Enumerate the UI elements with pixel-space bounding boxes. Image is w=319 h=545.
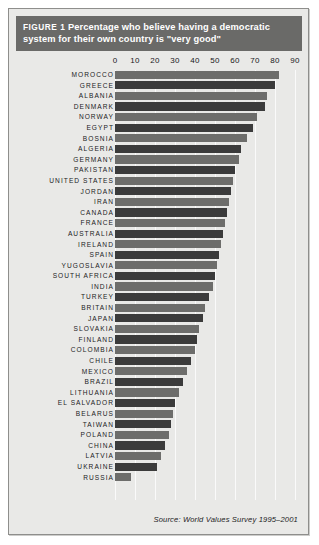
bar-colombia [115, 346, 195, 354]
bar-row: TAIWAN [16, 420, 302, 431]
bar-row: UKRAINE [16, 462, 302, 473]
bar-category-label: TURKEY [81, 292, 114, 301]
bar-row: NORWAY [16, 112, 302, 123]
bar-category-label: AUSTRALIA [68, 229, 114, 238]
bar-brazil [115, 378, 183, 386]
bar-category-label: CHILE [89, 356, 114, 365]
bar-category-label: GREECE [80, 81, 114, 90]
bar-category-label: TAIWAN [83, 420, 114, 429]
bar-category-label: UNITED STATES [49, 176, 114, 185]
bar-category-label: JORDAN [81, 187, 114, 196]
bar-row: FRANCE [16, 218, 302, 229]
bar-turkey [115, 293, 209, 301]
bar-category-label: PAKISTAN [74, 165, 114, 174]
bar-germany [115, 155, 239, 163]
bar-denmark [115, 102, 265, 110]
x-tick-70: 70 [250, 56, 259, 65]
bar-chile [115, 357, 191, 365]
bar-row: INDIA [16, 282, 302, 293]
bar-category-label: MOROCCO [71, 70, 114, 79]
bar-taiwan [115, 420, 171, 428]
bar-australia [115, 230, 223, 238]
bar-row: PAKISTAN [16, 165, 302, 176]
bar-category-label: DENMARK [74, 102, 114, 111]
bar-row: IRAN [16, 197, 302, 208]
bar-category-label: IRELAND [78, 240, 114, 249]
x-tick-0: 0 [113, 56, 118, 65]
bar-slovakia [115, 325, 199, 333]
bar-britain [115, 304, 205, 312]
bar-category-label: NORWAY [79, 112, 114, 121]
x-tick-80: 80 [270, 56, 279, 65]
bar-row: SPAIN [16, 250, 302, 261]
x-axis-tick-labels: 0102030405060708090 [16, 54, 302, 70]
bar-category-label: SOUTH AFRICA [53, 271, 114, 280]
bar-category-label: GERMANY [73, 155, 114, 164]
bar-row: AUSTRALIA [16, 229, 302, 240]
x-tick-40: 40 [190, 56, 199, 65]
x-tick-50: 50 [210, 56, 219, 65]
bar-spain [115, 251, 219, 259]
bar-japan [115, 314, 203, 322]
bar-belarus [115, 410, 173, 418]
bar-south-africa [115, 272, 215, 280]
figure-card: FIGURE 1 Percentage who believe having a… [8, 8, 309, 535]
bar-row: YUGOSLAVIA [16, 261, 302, 272]
bar-canada [115, 208, 227, 216]
bar-row: SOUTH AFRICA [16, 271, 302, 282]
bar-row: JAPAN [16, 314, 302, 325]
bar-category-label: SPAIN [89, 250, 114, 259]
bar-row: COLOMBIA [16, 345, 302, 356]
x-tick-10: 10 [130, 56, 139, 65]
bar-category-label: BRAZIL [85, 377, 114, 386]
bar-poland [115, 431, 169, 439]
figure-number-label: FIGURE 1 [23, 22, 65, 32]
bar-el-salvador [115, 399, 175, 407]
bar-lithuania [115, 388, 179, 396]
bar-row: CANADA [16, 208, 302, 219]
bar-row: RUSSIA [16, 473, 302, 484]
bar-row: SLOVAKIA [16, 324, 302, 335]
bar-row: EGYPT [16, 123, 302, 134]
bar-jordan [115, 187, 231, 195]
bar-category-label: ALGERIA [78, 144, 114, 153]
bar-united-states [115, 177, 233, 185]
bar-category-label: EGYPT [86, 123, 114, 132]
bar-row: LATVIA [16, 451, 302, 462]
bar-row: BRAZIL [16, 377, 302, 388]
bar-category-label: BRITAIN [81, 303, 114, 312]
bar-category-label: IRAN [94, 197, 114, 206]
bar-row: JORDAN [16, 187, 302, 198]
bar-list: MOROCCOGREECEALBANIADENMARKNORWAYEGYPTBO… [16, 70, 302, 500]
bar-row: FINLAND [16, 335, 302, 346]
bar-category-label: JAPAN [88, 314, 114, 323]
bar-india [115, 282, 213, 290]
bar-algeria [115, 145, 241, 153]
bar-norway [115, 113, 257, 121]
bar-category-label: ALBANIA [79, 91, 114, 100]
bar-category-label: EL SALVADOR [58, 398, 114, 407]
chart-plot-area: 0102030405060708090 MOROCCOGREECEALBANIA… [16, 54, 302, 509]
bar-egypt [115, 124, 253, 132]
bar-category-label: CHINA [88, 441, 114, 450]
bar-category-label: FINLAND [78, 335, 114, 344]
bar-category-label: LITHUANIA [70, 388, 114, 397]
bar-row: GREECE [16, 81, 302, 92]
bar-category-label: BELARUS [76, 409, 114, 418]
bar-row: LITHUANIA [16, 388, 302, 399]
bar-morocco [115, 71, 279, 79]
bar-row: CHINA [16, 441, 302, 452]
bar-row: DENMARK [16, 102, 302, 113]
bar-category-label: BOSNIA [83, 134, 114, 143]
bar-albania [115, 92, 267, 100]
chart-source-note: Source: World Values Survey 1995–2001 [153, 515, 298, 524]
bar-category-label: SLOVAKIA [73, 324, 114, 333]
bar-category-label: CANADA [80, 208, 114, 217]
bar-category-label: RUSSIA [83, 473, 114, 482]
bar-category-label: YUGOSLAVIA [61, 261, 114, 270]
bar-france [115, 219, 225, 227]
x-tick-90: 90 [290, 56, 299, 65]
bar-category-label: UKRAINE [77, 462, 114, 471]
bar-row: POLAND [16, 430, 302, 441]
x-tick-60: 60 [230, 56, 239, 65]
